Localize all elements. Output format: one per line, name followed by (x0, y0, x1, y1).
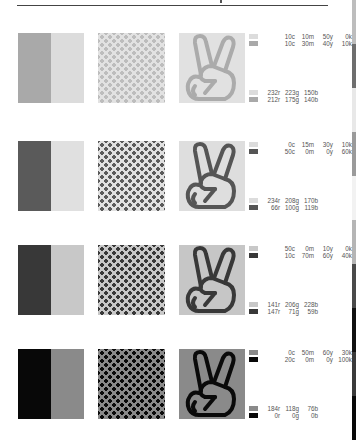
cmyk-value: 50m (295, 349, 314, 356)
cmyk-value: 70m (295, 252, 314, 259)
color-values-legend: 10c10m50y0k 10c30m40y10k 23 (249, 33, 352, 103)
rgb-value: 118g (280, 405, 299, 412)
rgb-value: 76b (299, 405, 318, 412)
edge-color-segment (352, 44, 356, 88)
peace-sign-hand-icon (179, 141, 245, 211)
cmyk-value: 50c (276, 245, 295, 252)
color-bar-light (51, 33, 84, 103)
cmyk-value: 20c (276, 356, 295, 363)
color-swatch (249, 413, 258, 418)
cmyk-line: 0c15m30y10k (249, 141, 352, 148)
peace-sign-hand-icon (179, 33, 245, 103)
rgb-line: 212r175g140b (249, 96, 352, 103)
rgb-value: 147r (261, 308, 280, 315)
rgb-value: 71g (280, 308, 299, 315)
color-swatch (249, 142, 258, 147)
peace-sign-hand-icon (179, 245, 245, 315)
color-values-legend: 0c15m30y10k 50c0m0y60k 234r (249, 141, 352, 211)
edge-color-segment (352, 132, 356, 176)
color-swatch (249, 34, 258, 39)
rgb-value: 228b (299, 301, 318, 308)
cmyk-value: 10c (276, 40, 295, 47)
cmyk-value: 40y (314, 40, 333, 47)
checkerboard-pattern (98, 141, 165, 211)
edge-color-segment (352, 396, 356, 440)
rgb-values: 234r208g170b 66r100g119b (249, 197, 352, 211)
cmyk-line: 10c30m40y10k (249, 40, 352, 47)
cmyk-value: 0k (333, 245, 352, 252)
rgb-line: 234r208g170b (249, 197, 352, 204)
color-bar-pair (18, 349, 84, 419)
checkerboard-pattern (98, 33, 165, 103)
cmyk-value: 0y (314, 356, 333, 363)
cmyk-value: 0c (276, 349, 295, 356)
rgb-value: 184r (261, 405, 280, 412)
rgb-value: 232r (261, 89, 280, 96)
color-bar-light (51, 141, 84, 211)
rgb-value: 234r (261, 197, 280, 204)
rgb-value: 208g (280, 197, 299, 204)
color-swatch (249, 406, 258, 411)
cmyk-values: 10c10m50y0k 10c30m40y10k (249, 33, 352, 47)
header-tick-mark (220, 0, 222, 3)
cmyk-value: 10k (333, 40, 352, 47)
peace-hand-panel (179, 245, 245, 315)
cmyk-values: 0c50m60y30k 20c0m0y100k (249, 349, 352, 363)
color-bar-dark (18, 33, 51, 103)
rgb-value: 170b (299, 197, 318, 204)
color-swatch (249, 309, 258, 314)
color-swatch (249, 205, 258, 210)
cmyk-line: 20c0m0y100k (249, 356, 352, 363)
rgb-value: 66r (261, 204, 280, 211)
color-bar-pair (18, 33, 84, 103)
color-swatch (249, 350, 258, 355)
edge-color-segment (352, 352, 356, 396)
edge-color-segment (352, 176, 356, 220)
color-bar-dark (18, 245, 51, 315)
cmyk-values: 0c15m30y10k 50c0m0y60k (249, 141, 352, 155)
cmyk-value: 0m (295, 245, 314, 252)
cmyk-value: 50y (314, 33, 333, 40)
color-swatch (249, 357, 258, 362)
color-combination-row: 0c50m60y30k 20c0m0y100k 184 (0, 349, 352, 421)
cmyk-value: 30k (333, 349, 352, 356)
color-bar-dark (18, 349, 51, 419)
color-bar-light (51, 349, 84, 419)
color-swatch (249, 90, 258, 95)
cmyk-line: 10c70m60y40k (249, 252, 352, 259)
rgb-value: 0r (261, 412, 280, 419)
cmyk-value: 10c (276, 33, 295, 40)
rgb-values: 232r223g150b 212r175g140b (249, 89, 352, 103)
edge-color-segment (352, 88, 356, 132)
cmyk-value: 0m (295, 356, 314, 363)
rgb-value: 141r (261, 301, 280, 308)
header-rule (17, 5, 328, 6)
cmyk-value: 60y (314, 349, 333, 356)
rgb-value: 100g (280, 204, 299, 211)
rgb-value: 206g (280, 301, 299, 308)
cmyk-line: 50c0m10y0k (249, 245, 352, 252)
cmyk-value: 0k (333, 33, 352, 40)
rgb-value: 212r (261, 96, 280, 103)
rgb-line: 0r0g0b (249, 412, 352, 419)
color-swatch (249, 246, 258, 251)
color-values-legend: 0c50m60y30k 20c0m0y100k 184 (249, 349, 352, 419)
color-swatch (249, 97, 258, 102)
peace-hand-panel (179, 141, 245, 211)
color-bar-light (51, 245, 84, 315)
color-values-legend: 50c0m10y0k 10c70m60y40k 141 (249, 245, 352, 315)
cmyk-value: 15m (295, 141, 314, 148)
rgb-line: 147r71g59b (249, 308, 352, 315)
rgb-value: 175g (280, 96, 299, 103)
color-swatch (249, 253, 258, 258)
cmyk-value: 40k (333, 252, 352, 259)
color-combination-row: 50c0m10y0k 10c70m60y40k 141 (0, 245, 352, 317)
color-bar-pair (18, 141, 84, 211)
cmyk-value: 100k (333, 356, 352, 363)
rgb-values: 141r206g228b 147r71g59b (249, 301, 352, 315)
color-swatch (249, 41, 258, 46)
color-swatch (249, 149, 258, 154)
cmyk-value: 10y (314, 245, 333, 252)
peace-sign-hand-icon (179, 349, 245, 419)
peace-hand-panel (179, 349, 245, 419)
